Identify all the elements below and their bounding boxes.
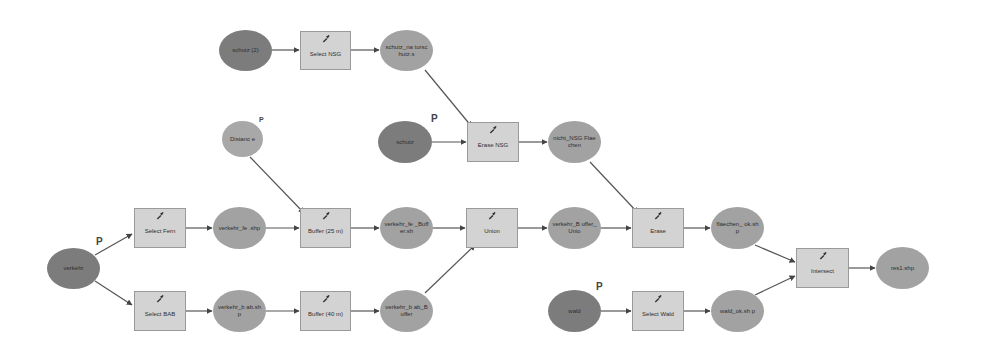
edge-nichtnsg-erase xyxy=(590,162,638,213)
model-builder-canvas: schutz (2) Select NSG schutz_na turschut… xyxy=(0,0,982,357)
hammer-icon xyxy=(818,251,827,260)
tool-select-wald[interactable]: Select Wald xyxy=(632,291,684,331)
node-label: verkehr_fe _Buffer.sh xyxy=(384,221,429,235)
tool-erase-nsg[interactable]: Erase NSG xyxy=(467,122,519,162)
hammer-icon xyxy=(156,211,165,220)
node-label: schutz (2) xyxy=(232,47,258,54)
node-label: Select Wald xyxy=(642,311,674,318)
parameter-marker: P xyxy=(431,113,438,124)
data-node-schutz-nsg[interactable]: schutz_na turschutz.s xyxy=(380,30,433,71)
node-label: res1.shp xyxy=(891,265,914,272)
hammer-icon xyxy=(321,294,330,303)
tool-union[interactable]: Union xyxy=(466,208,518,248)
data-node-schutz2[interactable]: schutz (2) xyxy=(219,30,272,71)
tool-select-bab[interactable]: Select BAB xyxy=(134,291,186,331)
data-node-schutz[interactable]: schutz xyxy=(378,121,432,163)
edge-waldok-intersect xyxy=(755,276,795,295)
data-node-verkehr[interactable]: verkehr xyxy=(47,248,100,289)
node-label: Buffer (40 m) xyxy=(308,311,343,318)
hammer-icon xyxy=(156,294,165,303)
hammer-icon xyxy=(488,211,497,220)
data-node-flaechen-ok[interactable]: flaechen_ ok.shp xyxy=(711,207,764,249)
node-label: nicht_NSG Flaechen xyxy=(552,135,597,149)
node-label: flaechen_ ok.shp xyxy=(715,221,760,235)
data-node-wald-ok[interactable]: wald_ok.sh p xyxy=(711,290,764,332)
node-label: Erase xyxy=(650,228,666,235)
hammer-icon xyxy=(654,294,663,303)
data-node-verkehr-bab[interactable]: verkehr_b ab.shp xyxy=(213,290,266,332)
node-label: Distanc e xyxy=(230,136,255,143)
node-label: verkehr_fe .shp xyxy=(219,225,260,232)
edge-verkehrbabbuffer-union xyxy=(425,245,475,293)
hammer-icon xyxy=(489,125,498,134)
node-label: wald_ok.sh p xyxy=(720,308,755,315)
data-node-verkehr-bab-buffer[interactable]: verkehr_b ab_Buffer xyxy=(380,290,433,332)
node-label: Select NSG xyxy=(310,51,341,58)
node-label: wald xyxy=(568,308,580,315)
tool-erase[interactable]: Erase xyxy=(632,208,684,248)
node-label: verkehr_b ab_Buffer xyxy=(384,304,429,318)
hammer-icon xyxy=(654,211,663,220)
parameter-marker: P xyxy=(596,281,603,292)
node-label: schutz xyxy=(396,139,413,146)
node-label: Intersect xyxy=(811,268,834,275)
node-label: Buffer (25 m) xyxy=(308,228,343,235)
edge-flaechenok-intersect xyxy=(755,245,795,262)
node-label: Select BAB xyxy=(145,311,175,318)
data-node-verkehr-fe-buffer[interactable]: verkehr_fe _Buffer.sh xyxy=(380,207,433,249)
tool-select-nsg[interactable]: Select NSG xyxy=(300,31,351,70)
node-label: verkehr_b ab.shp xyxy=(217,304,262,318)
data-node-nicht-nsg[interactable]: nicht_NSG Flaechen xyxy=(548,121,601,163)
node-label: Union xyxy=(484,228,500,235)
data-node-verkehr-buffer-union[interactable]: verkehr_B uffer_Unio xyxy=(548,207,601,249)
node-label: verkehr_B uffer_Unio xyxy=(552,221,597,235)
parameter-marker: P xyxy=(259,116,264,123)
edge-distance-buffer25 xyxy=(250,157,304,213)
data-node-distance[interactable]: Distanc e xyxy=(222,121,263,157)
tool-intersect[interactable]: Intersect xyxy=(796,248,849,288)
node-label: schutz_na turschutz.s xyxy=(384,44,429,58)
hammer-icon xyxy=(321,211,330,220)
node-label: verkehr xyxy=(63,265,83,272)
tool-select-fern[interactable]: Select Fern xyxy=(134,208,186,248)
node-label: Erase NSG xyxy=(478,142,508,149)
tool-buffer-25m[interactable]: Buffer (25 m) xyxy=(300,208,351,248)
parameter-marker: P xyxy=(96,236,103,247)
data-node-res1[interactable]: res1.shp xyxy=(876,247,929,289)
tool-buffer-40m[interactable]: Buffer (40 m) xyxy=(300,291,351,331)
node-label: Select Fern xyxy=(145,228,176,235)
edge-verkehr-selectbab xyxy=(95,281,132,305)
data-node-wald[interactable]: wald xyxy=(548,290,601,332)
data-node-verkehr-fe[interactable]: verkehr_fe .shp xyxy=(213,207,266,249)
hammer-icon xyxy=(321,34,330,43)
